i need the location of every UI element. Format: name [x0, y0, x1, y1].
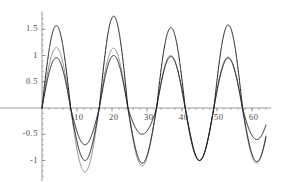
y-tick-label: 1.5	[26, 23, 38, 33]
chart-canvas	[0, 0, 298, 181]
chart-plot-area: 1.510.5-0.5-1102030405060	[0, 0, 298, 181]
x-tick-label: 30	[144, 112, 154, 122]
y-tick-label: -0.5	[23, 128, 38, 138]
axis-lines	[0, 12, 271, 182]
y-tick-label: -1	[30, 155, 38, 165]
y-tick-label: 1	[33, 50, 38, 60]
x-tick-label: 10	[74, 112, 84, 122]
x-tick-label: 20	[109, 112, 119, 122]
x-tick-label: 40	[179, 112, 189, 122]
x-tick-label: 50	[214, 112, 224, 122]
y-tick-label: 0.5	[26, 76, 38, 86]
x-axis-ticks	[42, 108, 266, 112]
x-tick-label: 60	[249, 112, 259, 122]
